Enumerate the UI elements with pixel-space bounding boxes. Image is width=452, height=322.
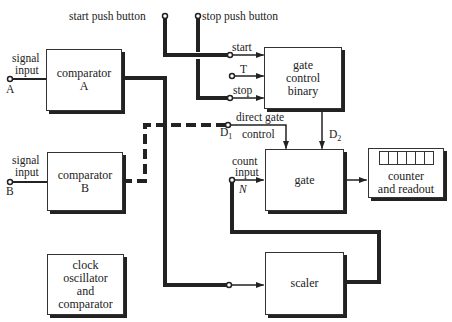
gate-control-binary-block: gate control binary [264,47,342,109]
count-input-terminal [230,178,235,183]
n-label: N [239,183,247,195]
start-terminal [228,53,233,58]
stop-button-terminal [196,14,201,19]
signal-b-label-2: input [15,166,39,178]
comparator-a-block: comparator A [46,49,122,111]
d2-label: D2 [329,128,341,145]
clock-line-1: clock [73,259,99,272]
direct-gate-label: direct gate [236,111,284,123]
counter-readout-block: counter and readout [368,148,444,198]
comparator-a-letter: A [80,80,89,93]
scaler-input-terminal [227,283,232,288]
input-b-terminal [8,180,13,185]
comparator-b-title: comparator [58,169,113,182]
gate-block: gate [265,149,344,211]
comparator-b-dashed-wire [122,125,226,181]
t-label: T [240,63,247,75]
scaler-block: scaler [265,252,344,315]
signal-a-label-2: input [15,64,39,76]
terminal-b-label: B [6,185,14,197]
input-label: input [235,166,259,178]
clock-line-3: and [77,285,94,298]
start-label: start [232,41,252,53]
terminal-a-label: A [6,83,14,95]
counter-line-1: counter [388,170,424,183]
stop-wire-lower [198,61,226,98]
stop-push-button-label: stop push button [202,10,278,22]
clock-line-2: oscillator [63,272,108,285]
gate-control-line-3: binary [288,85,319,98]
gate-control-line-2: control [286,72,320,85]
clock-oscillator-block: clock oscillator and comparator [47,254,124,315]
clock-line-4: comparator [58,298,113,311]
start-push-button-label: start push button [69,10,146,22]
comparator-b-block: comparator B [47,152,123,211]
gate-control-line-1: gate [293,59,313,72]
signal-b-label-1: signal [12,154,39,166]
scaler-title: scaler [291,277,319,290]
comparator-b-letter: B [81,182,89,195]
signal-a-label-1: signal [12,52,39,64]
input-a-terminal [8,77,13,82]
start-wire [165,18,226,55]
control-label: control [242,128,275,140]
stop-label: stop [233,84,252,96]
stop-terminal [228,96,233,101]
start-button-terminal [163,14,168,19]
t-terminal [230,74,235,79]
gate-title: gate [295,174,315,187]
counter-line-2: and readout [378,183,434,196]
d1-label: D1 [220,126,232,143]
digit-display [379,151,434,165]
